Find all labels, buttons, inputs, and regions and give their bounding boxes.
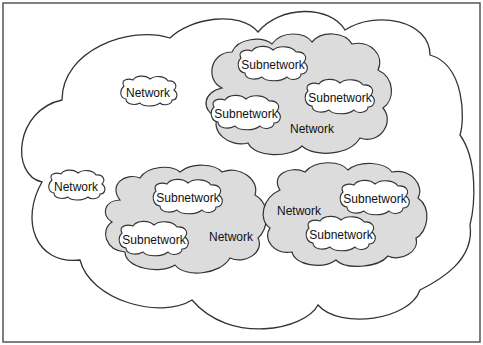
network-label-bottom-right: Network xyxy=(277,204,322,218)
subnetwork-label: Subnetwork xyxy=(309,228,373,242)
network-label-top: Network xyxy=(290,122,335,136)
subnetwork-label: Subnetwork xyxy=(122,233,186,247)
standalone-network-a: Network xyxy=(121,76,177,106)
subnetwork-top-2: Subnetwork xyxy=(305,79,374,113)
standalone-network-b: Network xyxy=(49,170,105,200)
subnetwork-label: Subnetwork xyxy=(214,107,278,121)
network-label: Network xyxy=(54,180,99,194)
subnetwork-top-1: Subnetwork xyxy=(238,46,307,80)
subnetwork-top-3: Subnetwork xyxy=(211,95,280,129)
subnetwork-bottom-left-2: Subnetwork xyxy=(119,221,188,255)
network-label-bottom-left: Network xyxy=(209,230,254,244)
network-diagram: Network Network Subnetwork Subnetwork Su… xyxy=(0,0,483,345)
subnetwork-label: Subnetwork xyxy=(308,91,372,105)
subnetwork-bottom-right-1: Subnetwork xyxy=(340,180,409,214)
subnetwork-label: Subnetwork xyxy=(156,191,220,205)
subnetwork-bottom-right-2: Subnetwork xyxy=(306,216,375,250)
subnetwork-label: Subnetwork xyxy=(241,58,305,72)
subnetwork-label: Subnetwork xyxy=(343,192,407,206)
subnetwork-bottom-left-1: Subnetwork xyxy=(153,179,222,213)
network-label: Network xyxy=(126,86,171,100)
